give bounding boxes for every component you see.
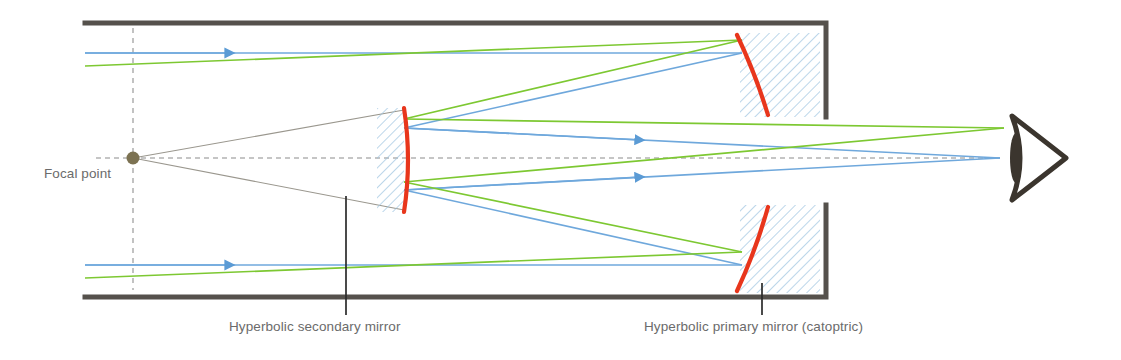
secondary-mirror-label: Hyperbolic secondary mirror <box>229 319 401 334</box>
blue-ray-arrow-exit-upper <box>404 128 640 140</box>
focal-point-dot <box>127 152 140 165</box>
eye-pupil <box>1010 133 1022 183</box>
telescope-tube <box>85 23 826 297</box>
tube-wall-top <box>85 23 826 117</box>
blue-ray-primary-top-to-secondary <box>404 53 742 128</box>
optics-diagram-svg <box>0 0 1121 360</box>
green-ray-bundle <box>85 40 1004 278</box>
diagram-canvas: Focal point Hyperbolic secondary mirror … <box>0 0 1121 360</box>
blue-ray-bundle <box>85 53 1000 265</box>
observer-eye <box>1010 116 1066 200</box>
secondary-mirror-substrate <box>377 108 404 212</box>
primary-mirror-bottom-substrate <box>740 205 820 293</box>
focal-point-label: Focal point <box>44 166 111 181</box>
tube-wall-bottom <box>85 205 826 297</box>
secondary-mirror-surface <box>404 108 408 212</box>
focal-cone-guides <box>133 110 404 210</box>
green-ray-primary-bottom-to-secondary <box>404 182 742 252</box>
primary-mirror-label: Hyperbolic primary mirror (catoptric) <box>644 319 863 334</box>
green-ray-secondary-to-eye-upper <box>404 119 1004 128</box>
